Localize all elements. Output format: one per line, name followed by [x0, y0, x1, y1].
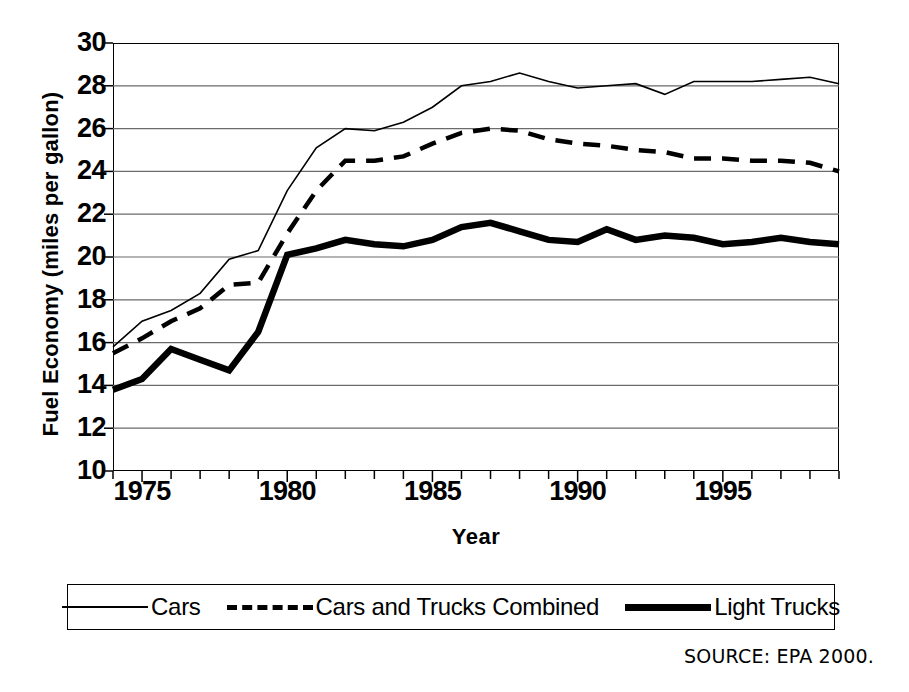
fuel-economy-chart-figure: 3028262422201816141210 Year Fuel Economy… [0, 0, 909, 692]
x-axis-tick-label: 1975 [87, 478, 197, 505]
y-axis-tick-label: 30 [36, 29, 106, 56]
source-note: SOURCE: EPA 2000. [0, 645, 874, 667]
legend-key-solid-thin-icon [62, 606, 148, 608]
x-axis-tick-label: 1980 [232, 478, 342, 505]
plot-area [113, 43, 839, 471]
x-axis-tick-label: 1985 [377, 478, 487, 505]
y-axis-title: Fuel Economy (miles per gallon) [38, 54, 64, 474]
legend-item-cars-and-trucks-combined: Cars and Trucks Combined [227, 593, 600, 621]
legend-item-light-trucks: Light Trucks [625, 593, 840, 621]
x-axis-tick-label: 1995 [668, 478, 778, 505]
legend: Cars Cars and Trucks Combined Light Truc… [67, 584, 835, 630]
legend-label-cars: Cars [149, 593, 200, 621]
x-axis-tick-label: 1990 [523, 478, 633, 505]
legend-item-cars: Cars [62, 593, 200, 621]
legend-key-solid-thick-icon [625, 604, 711, 611]
x-axis-title: Year [113, 524, 839, 550]
legend-label-cars-and-trucks-combined: Cars and Trucks Combined [314, 593, 600, 621]
legend-label-light-trucks: Light Trucks [712, 593, 840, 621]
legend-key-dashed-icon [227, 605, 313, 610]
